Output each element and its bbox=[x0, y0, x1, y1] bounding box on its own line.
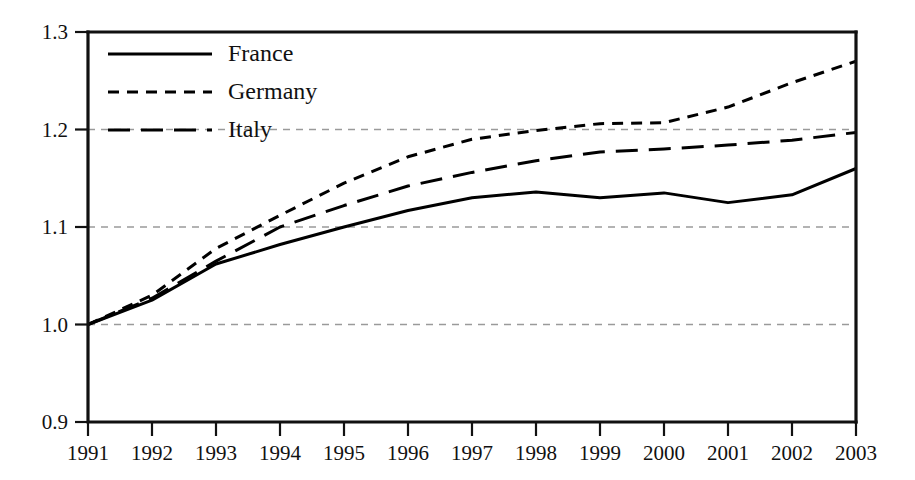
y-tick-label: 1.2 bbox=[42, 118, 68, 142]
x-tick-label: 2001 bbox=[707, 441, 749, 465]
chart-background bbox=[0, 0, 915, 480]
legend-label-italy: Italy bbox=[228, 116, 272, 142]
x-tick-label: 1993 bbox=[195, 441, 237, 465]
x-tick-label: 1992 bbox=[131, 441, 173, 465]
x-tick-label: 1996 bbox=[387, 441, 429, 465]
legend-label-germany: Germany bbox=[228, 78, 317, 104]
x-tick-label: 2002 bbox=[771, 441, 813, 465]
y-tick-label: 1.3 bbox=[42, 20, 68, 44]
x-tick-label: 1995 bbox=[323, 441, 365, 465]
y-tick-label: 0.9 bbox=[42, 410, 68, 434]
y-tick-label: 1.0 bbox=[42, 313, 68, 337]
line-chart: 0.91.01.11.21.3 199119921993199419951996… bbox=[0, 0, 915, 480]
x-tick-label: 1997 bbox=[451, 441, 493, 465]
x-tick-label: 1999 bbox=[579, 441, 621, 465]
y-tick-label: 1.1 bbox=[42, 215, 68, 239]
x-tick-label: 1994 bbox=[259, 441, 302, 465]
x-tick-label: 2000 bbox=[643, 441, 685, 465]
x-tick-label: 1991 bbox=[67, 441, 109, 465]
x-tick-label: 1998 bbox=[515, 441, 557, 465]
legend-label-france: France bbox=[228, 40, 293, 66]
x-tick-label: 2003 bbox=[835, 441, 877, 465]
chart-canvas: 0.91.01.11.21.3 199119921993199419951996… bbox=[0, 0, 915, 480]
